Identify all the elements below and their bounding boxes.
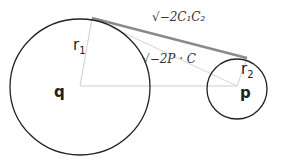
- label-r1: r1: [73, 36, 86, 56]
- label-center-expr: √−2P · C: [142, 52, 196, 66]
- label-p: p: [240, 84, 251, 102]
- label-tangent-length: √−2C₁C₂: [152, 10, 206, 24]
- tangent-circles-diagram: r1 q r2 p √−2C₁C₂ √−2P · C: [0, 0, 281, 166]
- circle-p: [207, 59, 267, 119]
- circle-q: [10, 19, 150, 155]
- label-q: q: [54, 83, 65, 101]
